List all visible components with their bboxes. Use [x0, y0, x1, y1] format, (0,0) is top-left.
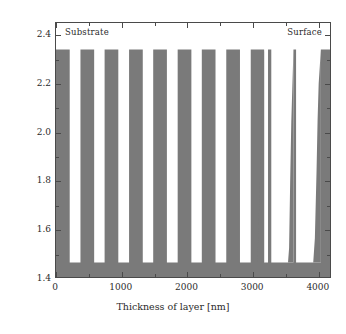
y-tick-label-1.6: 1.6: [37, 224, 51, 234]
y-tick-label-2.0: 2.0: [37, 127, 51, 137]
x-tick-major-4000: [319, 272, 320, 277]
x-tick-major-0: [56, 272, 57, 277]
index-profile-area: [56, 50, 330, 277]
x-tick-top-minor-3500: [286, 23, 287, 26]
x-tick-minor-3500: [286, 274, 287, 277]
y-tick-minor-2.3: [56, 60, 59, 61]
x-tick-label-3000: 3000: [241, 282, 264, 292]
y-tick-minor-1.9: [56, 157, 59, 158]
y-tick-minor-2.1: [56, 108, 59, 109]
y-tick-minor-1.7: [56, 206, 59, 207]
y-tick-right-minor-1.9: [327, 157, 330, 158]
y-tick-right-minor-2.3: [327, 60, 330, 61]
y-tick-right-minor-2.1: [327, 108, 330, 109]
plot-frame: Substrate Surface: [55, 22, 331, 278]
y-tick-major-2: [56, 133, 61, 134]
graded-layer-taper-3: [313, 50, 321, 263]
x-tick-top-0: [56, 23, 57, 28]
annotation-substrate: Substrate: [65, 27, 109, 37]
x-tick-top-3000: [253, 23, 254, 28]
x-tick-top-minor-500: [89, 23, 90, 26]
annotation-surface: Surface: [287, 27, 322, 37]
y-tick-label-1.8: 1.8: [37, 175, 51, 185]
y-tick-right-2: [325, 133, 330, 134]
x-tick-top-minor-2500: [220, 23, 221, 26]
y-tick-major-2.2: [56, 84, 61, 85]
y-tick-label-2.2: 2.2: [37, 78, 51, 88]
x-tick-top-1000: [122, 23, 123, 28]
y-tick-major-1.6: [56, 230, 61, 231]
y-tick-right-2.4: [325, 35, 330, 36]
y-tick-label-1.4: 1.4: [37, 273, 51, 283]
layer-fill-group: [56, 50, 330, 277]
x-tick-major-2000: [187, 272, 188, 277]
graded-layer-taper-2: [288, 50, 293, 263]
y-tick-right-1.6: [325, 230, 330, 231]
y-tick-right-2.2: [325, 84, 330, 85]
y-tick-major-2.4: [56, 35, 61, 36]
x-tick-label-1000: 1000: [109, 282, 132, 292]
x-tick-label-2000: 2000: [175, 282, 198, 292]
x-tick-top-4000: [319, 23, 320, 28]
x-axis-title: Thickness of layer [nm]: [0, 301, 346, 312]
y-tick-right-1.8: [325, 181, 330, 182]
refractive-index-profile: [56, 23, 330, 277]
y-tick-right-minor-1.7: [327, 206, 330, 207]
y-tick-label-2.4: 2.4: [37, 29, 51, 39]
x-tick-major-3000: [253, 272, 254, 277]
x-tick-major-1000: [122, 272, 123, 277]
x-tick-label-4000: 4000: [306, 282, 329, 292]
plot-area: [56, 23, 330, 277]
y-tick-right-minor-1.5: [327, 255, 330, 256]
x-tick-top-2000: [187, 23, 188, 28]
y-tick-major-1.8: [56, 181, 61, 182]
x-tick-minor-500: [89, 274, 90, 277]
x-tick-top-minor-1500: [155, 23, 156, 26]
chart-figure: Substrate Surface 1.41.61.82.02.22.40100…: [0, 0, 346, 334]
x-tick-minor-1500: [155, 274, 156, 277]
y-tick-minor-1.5: [56, 255, 59, 256]
x-tick-minor-2500: [220, 274, 221, 277]
x-tick-label-0: 0: [52, 282, 58, 292]
